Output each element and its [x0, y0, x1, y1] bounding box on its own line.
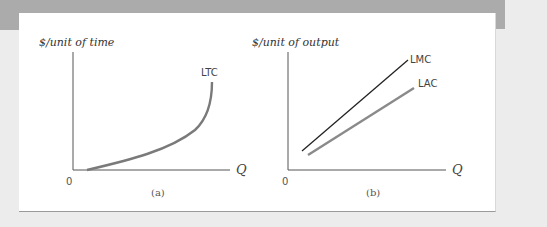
- lmc-line: [302, 60, 408, 151]
- figure-svg: $/unit of time Q 0 (a) LTC $/unit of out…: [0, 0, 547, 227]
- panel-b: $/unit of output Q 0 (b) LMC LAC: [252, 36, 463, 198]
- ltc-label: LTC: [201, 67, 218, 78]
- panel-b-caption: (b): [366, 187, 380, 198]
- panel-a: $/unit of time Q 0 (a) LTC: [39, 36, 247, 198]
- panel-a-x-axis-label: Q: [236, 162, 247, 177]
- panel-a-caption: (a): [151, 187, 165, 198]
- panel-b-x-axis-label: Q: [452, 162, 463, 177]
- ltc-curve: [87, 82, 212, 170]
- lac-label: LAC: [418, 78, 437, 89]
- panel-b-origin-label: 0: [282, 176, 288, 187]
- panel-a-y-axis-label: $/unit of time: [39, 36, 115, 49]
- lac-line: [308, 88, 414, 155]
- panel-b-y-axis-label: $/unit of output: [252, 36, 340, 49]
- panel-a-origin-label: 0: [66, 176, 72, 187]
- lmc-label: LMC: [410, 54, 431, 65]
